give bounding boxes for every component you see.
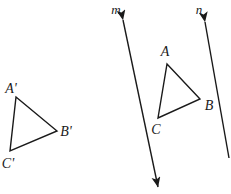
vertex-label-a: A bbox=[160, 44, 170, 59]
vertex-label-c-prime: C' bbox=[2, 156, 15, 171]
vertex-label-c: C bbox=[151, 122, 161, 137]
line-m bbox=[123, 20, 158, 187]
geometry-canvas: m n A' B' C' A B C bbox=[0, 0, 231, 194]
vertex-label-b-prime: B' bbox=[60, 124, 73, 139]
triangle-a-prime-b-prime-c-prime: A' B' C' bbox=[2, 81, 73, 171]
triangle-a-b-c-outline bbox=[158, 64, 200, 118]
vertex-label-a-prime: A' bbox=[4, 81, 18, 96]
triangle-a-b-c: A B C bbox=[151, 44, 213, 137]
line-n-group: n bbox=[196, 2, 229, 158]
vertex-label-b: B bbox=[205, 98, 214, 113]
line-m-label: m bbox=[111, 2, 120, 17]
geometry-diagram: m n A' B' C' A B C bbox=[0, 0, 231, 194]
line-m-group: m bbox=[111, 2, 158, 187]
line-n bbox=[205, 22, 229, 158]
triangle-a-prime-b-prime-c-prime-outline bbox=[10, 97, 57, 151]
line-n-label: n bbox=[196, 2, 203, 17]
